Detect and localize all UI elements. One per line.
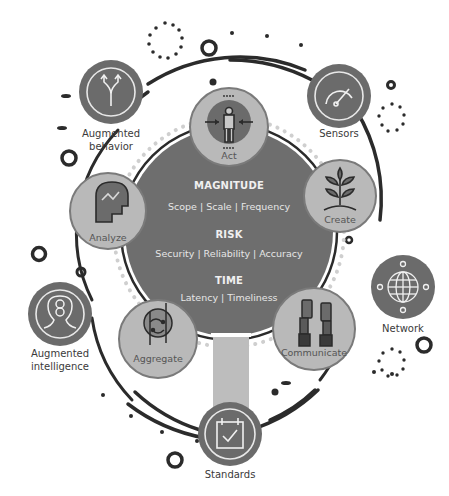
outer-standards-label: Standards (190, 468, 270, 481)
label-line: Augmented (61, 127, 161, 140)
node-create-label: Create (310, 214, 370, 225)
time-heading: TIME (179, 275, 279, 286)
node-act-label: Act (199, 150, 259, 161)
label-line: intelligence (5, 360, 115, 373)
magnitude-items: Scope | Scale | Frequency (149, 201, 309, 212)
node-communicate-label: Communicate (274, 347, 354, 358)
outer-network-label: Network (363, 322, 443, 335)
node-analyze-label: Analyze (78, 232, 138, 243)
risk-heading: RISK (179, 229, 279, 240)
magnitude-heading: MAGNITUDE (179, 180, 279, 191)
label-line: Augmented (5, 347, 115, 360)
outer-augmented-behavior-label: Augmented behavior (61, 127, 161, 153)
outer-sensors-label: Sensors (299, 127, 379, 140)
node-aggregate-label: Aggregate (118, 353, 198, 364)
risk-items: Security | Reliability | Accuracy (139, 248, 319, 259)
time-items: Latency | Timeliness (159, 292, 299, 303)
outer-augmented-intelligence-label: Augmented intelligence (5, 347, 115, 373)
label-line: behavior (61, 140, 161, 153)
